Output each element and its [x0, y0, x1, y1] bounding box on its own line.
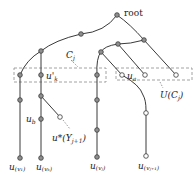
leaf-node-vj1	[144, 154, 149, 159]
hollow-node	[144, 111, 149, 116]
leaf-label-vj: u(vⱼ)	[90, 161, 106, 171]
edge	[118, 40, 144, 44]
ucj-pointer-arrow	[160, 82, 163, 88]
ustar-node	[58, 115, 63, 120]
edge	[81, 15, 117, 34]
cj-pointer-arrow	[71, 60, 78, 67]
tree-node	[116, 42, 121, 47]
ub-node	[39, 117, 44, 122]
hollow-node	[174, 73, 179, 78]
tree-node	[95, 73, 100, 78]
uk-node	[39, 73, 44, 78]
tree-node	[39, 49, 44, 54]
ub-label: ub	[26, 114, 36, 125]
leaf-node-vj	[95, 155, 100, 160]
tree-node	[18, 98, 23, 103]
edge	[41, 96, 60, 117]
leaf-label-v1: u(v₁)	[9, 162, 26, 172]
ua-label: ua	[127, 71, 137, 82]
ua-node	[120, 73, 125, 78]
uk-label: u'k	[46, 71, 58, 82]
leaf-label-vk: u(vₖ)	[36, 162, 53, 172]
edge	[144, 40, 176, 75]
tree-diagram: root Cj u'k ua U(Cj) ub u*(Yj+1) u(v₁) u…	[0, 0, 195, 175]
ucj-label: U(Cj)	[160, 90, 184, 102]
hollow-node	[143, 73, 148, 78]
root-node	[115, 13, 120, 18]
cut-box-cj	[14, 68, 106, 82]
tree-node	[99, 50, 104, 55]
tree-node	[95, 128, 100, 133]
tree-node	[18, 73, 23, 78]
edge	[41, 34, 81, 51]
edge	[101, 44, 118, 52]
tree-node	[142, 38, 147, 43]
ustar-pointer-arrow	[63, 120, 70, 129]
edge	[122, 75, 146, 156]
edge	[20, 51, 41, 75]
edge	[117, 15, 144, 40]
leaf-node-v1	[18, 156, 23, 161]
tree-node	[95, 98, 100, 103]
tree-node	[79, 32, 84, 37]
leaf-node-vk	[39, 156, 44, 161]
cj-label: Cj	[66, 50, 75, 62]
root-label: root	[124, 8, 143, 18]
ustar-label: u*(Yj+1)	[52, 133, 86, 145]
edge	[101, 52, 122, 75]
tree-node	[39, 94, 44, 99]
leaf-label-vj1: u(vⱼ₊₁)	[138, 161, 160, 171]
